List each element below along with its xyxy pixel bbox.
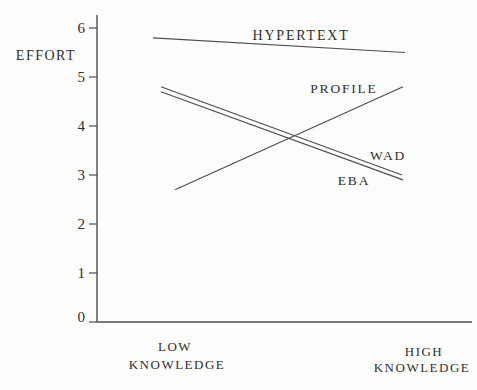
effort-knowledge-figure: EFFORT 6 5 4 3 2 1 0 HYPERTEXT PROFILE W… <box>0 0 477 390</box>
series-line-eba <box>161 92 403 180</box>
y-tick-label-2: 2 <box>78 216 86 232</box>
series-label-hypertext: HYPERTEXT <box>252 28 349 43</box>
y-tick-label-6: 6 <box>78 20 86 36</box>
x-label-high-line1: HIGH <box>405 344 444 359</box>
series-lines <box>153 38 405 190</box>
x-label-low-line1: LOW <box>158 339 192 354</box>
y-axis-ticks <box>89 28 97 322</box>
y-axis-title: EFFORT <box>16 48 76 63</box>
y-tick-label-3: 3 <box>78 167 86 183</box>
y-tick-label-4: 4 <box>78 118 86 134</box>
axes <box>89 15 472 322</box>
y-tick-label-5: 5 <box>78 69 86 85</box>
x-label-low-line2: KNOWLEDGE <box>129 357 226 372</box>
x-label-high-line2: KNOWLEDGE <box>374 360 471 375</box>
series-line-wad <box>161 87 402 175</box>
series-label-wad: WAD <box>370 148 406 163</box>
y-tick-label-0: 0 <box>78 309 86 325</box>
y-tick-label-1: 1 <box>78 265 86 281</box>
series-label-eba: EBA <box>338 173 370 188</box>
series-label-profile: PROFILE <box>310 81 377 96</box>
effort-knowledge-chart: EFFORT 6 5 4 3 2 1 0 HYPERTEXT PROFILE W… <box>0 0 477 390</box>
